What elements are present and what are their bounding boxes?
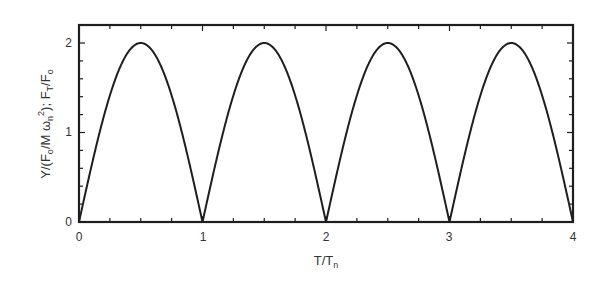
- y-axis-label: Y/(Fo/M ωn2); FT/Fo: [36, 69, 55, 178]
- x-tick-labels: 0 1 2 3 4: [76, 230, 577, 244]
- y-tick-label-2: 2: [65, 36, 72, 50]
- x-tick-label-2: 2: [323, 230, 330, 244]
- chart: 0 1 2 3 4 0 1 2 T/Tn Y/(Fo/M ωn2); FT/Fo: [0, 0, 599, 284]
- data-curve: [79, 43, 573, 222]
- tick-marks: [79, 25, 573, 222]
- x-tick-label-4: 4: [570, 230, 577, 244]
- y-tick-label-1: 1: [65, 125, 72, 139]
- y-tick-labels: 0 1 2: [65, 36, 72, 229]
- plot-frame: [79, 25, 573, 222]
- y-tick-label-0: 0: [65, 215, 72, 229]
- x-tick-label-0: 0: [76, 230, 83, 244]
- x-tick-label-3: 3: [446, 230, 453, 244]
- x-axis-label: T/Tn: [314, 253, 339, 270]
- x-tick-label-1: 1: [200, 230, 207, 244]
